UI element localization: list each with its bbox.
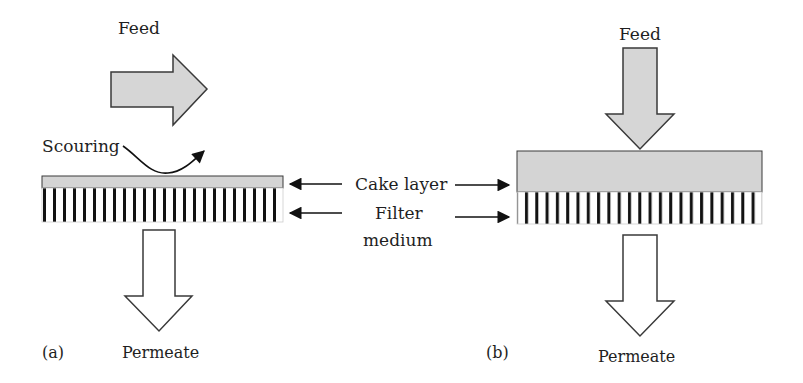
panel-b-feed-label: Feed — [619, 24, 661, 44]
panel-b-permeate-label: Permeate — [598, 347, 675, 366]
panel-a: Feed Scouring (a) Permeate — [42, 18, 283, 362]
panel-a-label: (a) — [42, 343, 64, 362]
permeate-arrow-down-icon — [125, 230, 192, 331]
panel-a-filter-medium — [42, 188, 283, 222]
panel-b-filter-medium — [517, 192, 762, 224]
filtration-diagram: Feed Scouring (a) Permeate Cake layer Fi… — [0, 0, 803, 383]
panel-a-permeate-label: Permeate — [122, 343, 199, 362]
feed-arrow-down-icon — [606, 48, 674, 149]
center-labels: Cake layer Filter medium — [290, 174, 509, 250]
panel-b-label: (b) — [486, 343, 509, 362]
scouring-curve-arrow-icon — [123, 146, 204, 173]
panel-b-cake-layer — [517, 151, 762, 192]
filter-label-line1: Filter — [375, 203, 424, 223]
cake-layer-label: Cake layer — [355, 174, 448, 194]
panel-a-feed-label: Feed — [118, 18, 160, 38]
panel-a-cake-layer — [42, 176, 283, 188]
scouring-label: Scouring — [42, 136, 120, 156]
panel-b: Feed (b) Permeate — [486, 24, 762, 366]
permeate-arrow-down-icon — [606, 235, 674, 336]
filter-label-line2: medium — [363, 230, 433, 250]
feed-arrow-right-icon — [111, 55, 207, 125]
